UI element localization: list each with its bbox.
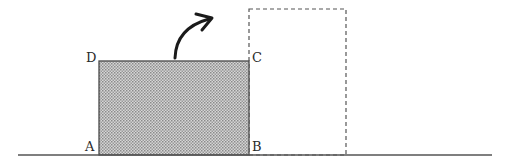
vertex-label-d: D [86,50,96,65]
block-abcd [99,61,249,155]
rotation-arrow-icon [175,14,212,58]
vertex-label-b: B [252,139,262,154]
vertex-label-c: C [252,50,262,65]
ghost-block-outline [249,9,346,155]
vertex-label-a: A [84,139,95,154]
tipping-block-diagram: D C A B [0,0,506,164]
